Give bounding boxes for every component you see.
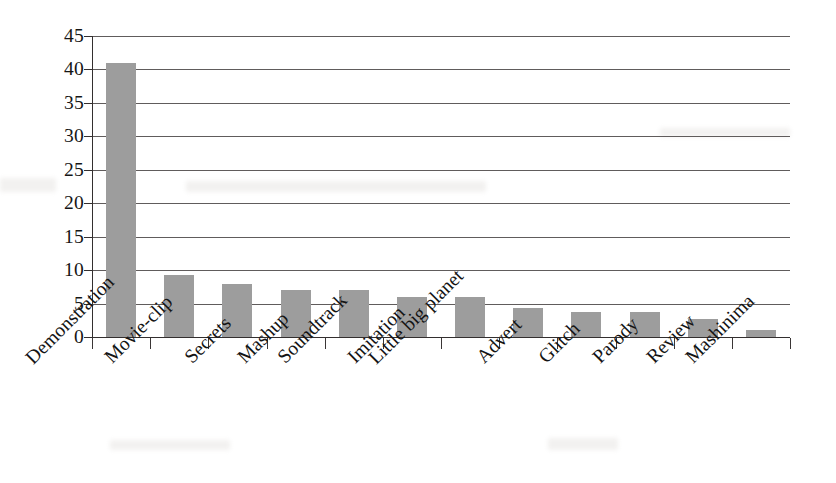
x-axis-tick bbox=[732, 338, 733, 349]
y-axis-tick-label: 25 bbox=[24, 160, 84, 180]
bar[interactable] bbox=[746, 330, 776, 337]
scan-artifact bbox=[110, 440, 230, 450]
x-axis-tick bbox=[441, 338, 442, 349]
x-axis-tick bbox=[150, 338, 151, 349]
bar[interactable] bbox=[455, 297, 485, 337]
y-axis-tick-label: 30 bbox=[24, 126, 84, 146]
y-axis-tick-label: 40 bbox=[24, 59, 84, 79]
y-axis-tick-label: 10 bbox=[24, 260, 84, 280]
y-axis-tick-label: 35 bbox=[24, 93, 84, 113]
bar[interactable] bbox=[106, 63, 136, 337]
y-axis-tick-label: 15 bbox=[24, 227, 84, 247]
x-axis-tick bbox=[325, 338, 326, 349]
y-axis-tick-label: 20 bbox=[24, 193, 84, 213]
scan-artifact bbox=[548, 438, 618, 450]
x-axis-tick bbox=[790, 338, 791, 349]
scan-artifact bbox=[0, 178, 56, 192]
y-axis-tick-label: 45 bbox=[24, 26, 84, 46]
bar-chart: 051015202530354045 DemonstrationMovie-cl… bbox=[0, 0, 836, 483]
x-axis-tick bbox=[92, 338, 93, 349]
